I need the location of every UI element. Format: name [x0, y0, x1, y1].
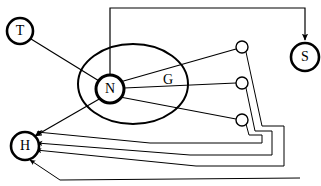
region-g-label: G — [163, 72, 173, 87]
synapse-circle-3 — [236, 114, 248, 126]
node-n-label: N — [105, 81, 115, 96]
node-n: N — [96, 75, 124, 103]
synapse-circle-2 — [236, 77, 248, 89]
edge-n-to-syn-1 — [120, 49, 236, 82]
circuit-diagram-svg: G T N H S — [0, 0, 321, 186]
node-s-label: S — [301, 49, 309, 64]
edge-t-to-n — [31, 39, 104, 84]
edge-n-to-h — [35, 98, 101, 136]
node-t: T — [7, 18, 33, 44]
node-t-label: T — [16, 23, 25, 38]
edge-n-to-syn-2 — [124, 83, 236, 88]
edge-syn-3-to-h — [37, 124, 262, 143]
diagram-canvas: G T N H S — [0, 0, 321, 186]
edge-syn-1-to-h — [36, 52, 284, 166]
node-h-label: H — [20, 138, 30, 153]
node-h: H — [11, 132, 39, 160]
node-s: S — [291, 43, 319, 71]
edge-n-to-s — [110, 8, 305, 75]
synapse-circle-1 — [236, 41, 248, 53]
